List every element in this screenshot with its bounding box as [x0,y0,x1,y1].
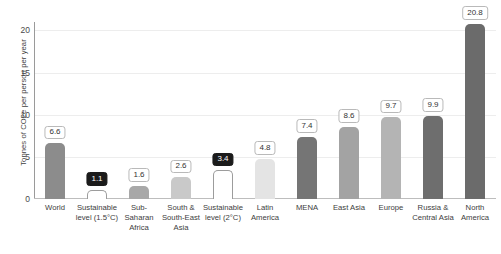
bar-value-label: 2.6 [170,160,191,174]
bar-column[interactable]: 6.6 [34,22,76,199]
bar-column[interactable]: 8.6 [328,22,370,199]
bar-value-label: 9.7 [380,100,401,114]
y-axis-tick-label: 0 [6,195,30,204]
bar[interactable] [255,159,275,199]
bar-column[interactable]: 4.8 [244,22,286,199]
x-axis-category-labels: WorldSustainablelevel (1.5°C)Sub-Saharan… [34,203,496,251]
bar-column[interactable]: 1.1 [76,22,118,199]
y-axis-title: Tonnes of CO2e per person per year [19,18,28,188]
bar-series: 6.61.11.62.63.44.87.48.69.79.920.8 [34,22,496,199]
bar-value-label: 1.1 [86,172,107,186]
bar-column[interactable]: 9.7 [370,22,412,199]
y-axis-tick-label: 20 [6,26,30,35]
category-label: NorthAmerica [448,203,501,223]
bar[interactable] [297,137,317,199]
bar-value-label: 20.8 [462,6,488,20]
bar[interactable] [339,127,359,199]
bar-column[interactable]: 2.6 [160,22,202,199]
bar-value-label: 4.8 [254,141,275,155]
bar-value-label: 6.6 [44,126,65,140]
category-label-line: America [448,213,501,223]
bar[interactable] [423,116,443,199]
bar-column[interactable]: 20.8 [454,22,496,199]
bar-value-label: 9.9 [422,98,443,112]
bar[interactable] [45,143,65,199]
bar-value-label: 7.4 [296,119,317,133]
category-label-line: America [238,213,292,223]
bar-value-label: 3.4 [212,153,233,167]
bar[interactable] [213,170,233,199]
category-label-line: North [448,203,501,213]
bar[interactable] [87,190,107,199]
y-axis-tick-label: 10 [6,110,30,119]
category-label-line: Asia [154,223,208,233]
bar[interactable] [465,24,485,199]
bar[interactable] [381,117,401,199]
bar-column[interactable]: 1.6 [118,22,160,199]
bar-value-label: 8.6 [338,109,359,123]
y-axis-tick-label: 15 [6,68,30,77]
bar-value-label: 1.6 [128,168,149,182]
plot-area: 05101520 6.61.11.62.63.44.87.48.69.79.92… [34,22,496,199]
bar-column[interactable]: 7.4 [286,22,328,199]
bar[interactable] [129,186,149,199]
y-axis-tick-label: 5 [6,153,30,162]
bar-column[interactable]: 9.9 [412,22,454,199]
bar-column[interactable]: 3.4 [202,22,244,199]
bar[interactable] [171,177,191,199]
bar-chart: Tonnes of CO2e per person per year 05101… [0,0,501,254]
